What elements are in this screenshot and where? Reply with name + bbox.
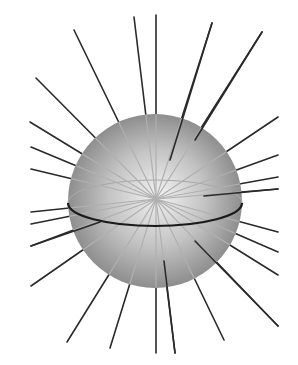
field-line bbox=[195, 241, 278, 326]
diagram-canvas bbox=[0, 0, 298, 365]
sphere-field-lines-diagram bbox=[0, 0, 298, 365]
